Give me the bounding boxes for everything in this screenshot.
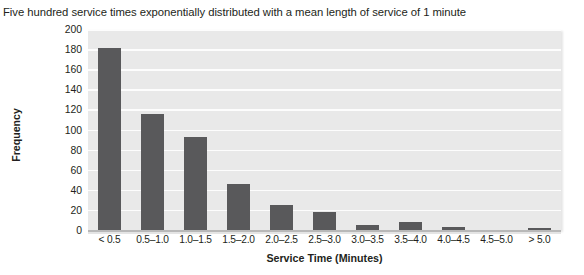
bar <box>227 184 250 230</box>
bar <box>399 222 422 230</box>
bar-slot <box>174 29 217 230</box>
figure-caption: Five hundred service times exponentially… <box>3 5 578 19</box>
x-axis-tick-label: > 5.0 <box>518 234 561 245</box>
bar <box>141 114 164 230</box>
y-axis-tick-label: 120 <box>46 104 82 115</box>
y-axis-title: Frequency <box>10 100 22 170</box>
y-axis-tick-label: 180 <box>46 44 82 55</box>
bar-slot <box>518 29 561 230</box>
plot-area <box>88 29 561 230</box>
y-axis-tick-label: 160 <box>46 64 82 75</box>
x-axis-tick-label: 1.0–1.5 <box>174 234 217 245</box>
bar-slot <box>475 29 518 230</box>
y-axis-tick-label: 200 <box>46 24 82 35</box>
bar <box>98 48 121 230</box>
x-axis-tick-label: 1.5–2.0 <box>217 234 260 245</box>
x-axis-tick-label: 3.5–4.0 <box>389 234 432 245</box>
bar-series <box>88 29 561 230</box>
bar-slot <box>260 29 303 230</box>
x-axis-title: Service Time (Minutes) <box>88 252 561 264</box>
x-axis-tick-label: 2.5–3.0 <box>303 234 346 245</box>
x-axis-line <box>88 230 561 232</box>
x-axis-tick-labels: < 0.50.5–1.01.0–1.51.5–2.02.0–2.52.5–3.0… <box>88 234 561 245</box>
bar-slot <box>131 29 174 230</box>
y-axis-tick-label: 40 <box>46 184 82 195</box>
x-axis-tick-label: 2.0–2.5 <box>260 234 303 245</box>
x-axis-tick-label: < 0.5 <box>88 234 131 245</box>
bar-slot <box>88 29 131 230</box>
figure-histogram: Five hundred service times exponentially… <box>0 0 584 275</box>
y-axis-tick-label: 20 <box>46 204 82 215</box>
x-axis-tick-label: 4.5–5.0 <box>475 234 518 245</box>
y-axis-tick-label: 140 <box>46 84 82 95</box>
bar-slot <box>217 29 260 230</box>
x-axis-tick-label: 4.0–4.5 <box>432 234 475 245</box>
bar-slot <box>432 29 475 230</box>
y-axis-tick-label: 80 <box>46 144 82 155</box>
bar-slot <box>346 29 389 230</box>
y-axis-tick-label: 60 <box>46 164 82 175</box>
chart-histogram: Frequency 020406080100120140160180200 < … <box>0 22 584 262</box>
y-axis-tick-label: 0 <box>46 225 82 236</box>
bar-slot <box>303 29 346 230</box>
bar <box>184 137 207 230</box>
bar <box>270 205 293 230</box>
x-axis-tick-label: 3.0–3.5 <box>346 234 389 245</box>
bar-slot <box>389 29 432 230</box>
y-axis-tick-label: 100 <box>46 124 82 135</box>
y-axis-tick-labels: 020406080100120140160180200 <box>46 22 82 230</box>
bar <box>313 212 336 230</box>
x-axis-tick-label: 0.5–1.0 <box>131 234 174 245</box>
